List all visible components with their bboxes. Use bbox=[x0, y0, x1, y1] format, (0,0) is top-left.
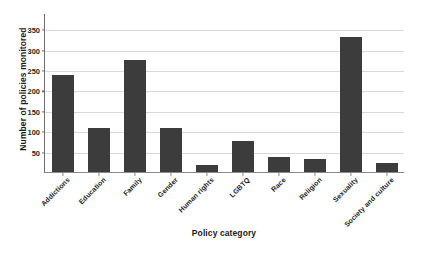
y-tick-label: 50 bbox=[32, 148, 40, 157]
x-tick-mark bbox=[134, 172, 135, 176]
plot-area: 50100150200250300350 bbox=[44, 14, 404, 173]
y-tick-label: 300 bbox=[27, 46, 40, 55]
x-tick-label: Human rights bbox=[177, 176, 215, 214]
y-tick-label: 350 bbox=[27, 26, 40, 35]
x-axis-tick-labels: AddictionsEducationFamilyGenderHuman rig… bbox=[44, 176, 404, 234]
bar-slot bbox=[369, 14, 405, 172]
x-tick-label: Sexuality bbox=[332, 176, 359, 203]
x-tick-label: Religion bbox=[298, 176, 323, 201]
bar[interactable] bbox=[52, 75, 74, 172]
x-tick-label: Gender bbox=[156, 176, 179, 199]
x-axis-title: Policy category bbox=[44, 228, 404, 238]
bar-chart-figure: Number of policies monitored 50100150200… bbox=[0, 0, 422, 256]
y-tick-label: 250 bbox=[27, 67, 40, 76]
bar-slot bbox=[45, 14, 81, 172]
bar-slot bbox=[153, 14, 189, 172]
bar-slot bbox=[297, 14, 333, 172]
x-tick-label: Education bbox=[77, 176, 107, 206]
x-tick-mark bbox=[62, 172, 63, 176]
bar[interactable] bbox=[196, 165, 218, 172]
x-tick-mark bbox=[350, 172, 351, 176]
bar[interactable] bbox=[340, 37, 362, 172]
bar-slot bbox=[225, 14, 261, 172]
bars-layer bbox=[45, 14, 404, 172]
x-tick-mark bbox=[206, 172, 207, 176]
x-tick-label: Family bbox=[122, 176, 143, 197]
bar[interactable] bbox=[88, 128, 110, 172]
x-tick-label: Addictions bbox=[40, 176, 71, 207]
x-tick-mark bbox=[314, 172, 315, 176]
y-tick-label: 200 bbox=[27, 87, 40, 96]
bar[interactable] bbox=[376, 163, 398, 172]
x-tick-mark bbox=[278, 172, 279, 176]
bar[interactable] bbox=[304, 159, 326, 172]
y-tick-label: 100 bbox=[27, 128, 40, 137]
x-tick-mark bbox=[242, 172, 243, 176]
bar[interactable] bbox=[232, 141, 254, 172]
bar-slot bbox=[117, 14, 153, 172]
bar[interactable] bbox=[124, 60, 146, 172]
bar-slot bbox=[333, 14, 369, 172]
bar[interactable] bbox=[160, 128, 182, 172]
x-tick-label: Race bbox=[270, 176, 287, 193]
bar-slot bbox=[261, 14, 297, 172]
y-tick-label: 150 bbox=[27, 107, 40, 116]
bar-slot bbox=[81, 14, 117, 172]
x-tick-label: LGBTQ bbox=[228, 176, 251, 199]
x-tick-mark bbox=[386, 172, 387, 176]
x-tick-mark bbox=[170, 172, 171, 176]
x-tick-mark bbox=[98, 172, 99, 176]
bar[interactable] bbox=[268, 157, 290, 172]
bar-slot bbox=[189, 14, 225, 172]
